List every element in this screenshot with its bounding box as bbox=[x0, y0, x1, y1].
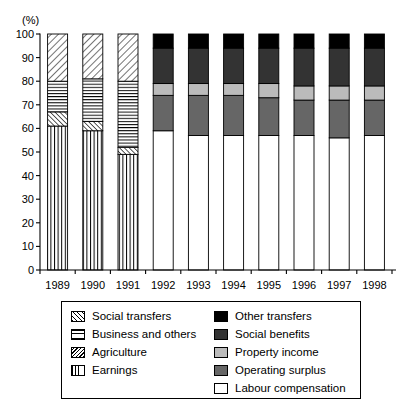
bar-segment-labour-compensation bbox=[364, 135, 384, 270]
bar-segment-other-transfers bbox=[294, 34, 314, 48]
bar-1997 bbox=[329, 34, 349, 270]
social-transfers-swatch bbox=[71, 311, 85, 322]
bar-segment-property-income bbox=[364, 86, 384, 100]
bars-layer bbox=[48, 34, 385, 270]
bar-segment-agriculture bbox=[118, 147, 138, 154]
legend-column-right: Other transfersSocial benefitsProperty i… bbox=[214, 308, 346, 398]
bar-segment-property-income bbox=[188, 84, 208, 96]
bar-1993 bbox=[188, 34, 208, 270]
legend-item-other-transfers[interactable]: Other transfers bbox=[214, 308, 346, 325]
legend-label: Operating surplus bbox=[235, 365, 326, 377]
bar-segment-social-benefits bbox=[329, 48, 349, 86]
bar-segment-business-and-others bbox=[83, 79, 103, 121]
operating-surplus-swatch bbox=[214, 365, 228, 376]
bar-1994 bbox=[224, 34, 244, 270]
bar-1998 bbox=[364, 34, 384, 270]
bar-segment-business-and-others bbox=[48, 81, 68, 112]
bar-segment-labour-compensation bbox=[294, 135, 314, 270]
bar-segment-social-benefits bbox=[188, 48, 208, 83]
legend-item-business-and-others[interactable]: Business and others bbox=[71, 326, 196, 343]
bar-segment-operating-surplus bbox=[294, 100, 314, 135]
bar-segment-other-transfers bbox=[259, 34, 279, 48]
bar-segment-earnings bbox=[118, 154, 138, 270]
legend-label: Social transfers bbox=[92, 311, 171, 323]
bar-segment-other-transfers bbox=[364, 34, 384, 48]
bar-segment-social-transfers bbox=[48, 34, 68, 81]
bar-segment-property-income bbox=[153, 84, 173, 96]
legend-item-property-income[interactable]: Property income bbox=[214, 344, 346, 361]
legend-item-labour-compensation[interactable]: Labour compensation bbox=[214, 380, 346, 397]
bar-segment-operating-surplus bbox=[224, 95, 244, 135]
bar-segment-social-benefits bbox=[364, 48, 384, 86]
property-income-swatch bbox=[214, 347, 228, 358]
bar-segment-property-income bbox=[294, 86, 314, 100]
legend-item-social-benefits[interactable]: Social benefits bbox=[214, 326, 346, 343]
legend-label: Agriculture bbox=[92, 347, 147, 359]
agriculture-swatch bbox=[71, 347, 85, 358]
bar-segment-operating-surplus bbox=[259, 98, 279, 136]
legend-item-operating-surplus[interactable]: Operating surplus bbox=[214, 362, 346, 379]
bar-segment-other-transfers bbox=[224, 34, 244, 48]
labour-compensation-swatch bbox=[214, 383, 228, 394]
legend-label: Labour compensation bbox=[235, 383, 346, 395]
bar-segment-agriculture bbox=[83, 121, 103, 130]
bar-segment-social-benefits bbox=[259, 48, 279, 83]
bar-segment-operating-surplus bbox=[188, 95, 208, 135]
bar-segment-operating-surplus bbox=[153, 95, 173, 130]
bar-segment-property-income bbox=[259, 84, 279, 98]
social-benefits-swatch bbox=[214, 329, 228, 340]
other-transfers-swatch bbox=[214, 311, 228, 322]
bar-segment-labour-compensation bbox=[259, 135, 279, 270]
bar-segment-social-benefits bbox=[294, 48, 314, 86]
bar-1996 bbox=[294, 34, 314, 270]
legend: Social transfersBusiness and othersAgric… bbox=[61, 301, 361, 399]
legend-label: Earnings bbox=[92, 365, 137, 377]
bar-segment-other-transfers bbox=[329, 34, 349, 48]
bar-segment-labour-compensation bbox=[224, 135, 244, 270]
legend-item-social-transfers[interactable]: Social transfers bbox=[71, 308, 196, 325]
bar-segment-labour-compensation bbox=[153, 131, 173, 270]
bar-segment-other-transfers bbox=[153, 34, 173, 48]
bar-segment-other-transfers bbox=[188, 34, 208, 48]
legend-item-agriculture[interactable]: Agriculture bbox=[71, 344, 196, 361]
legend-label: Business and others bbox=[92, 329, 196, 341]
legend-label: Social benefits bbox=[235, 329, 310, 341]
bar-segment-property-income bbox=[329, 86, 349, 100]
bar-segment-property-income bbox=[224, 84, 244, 96]
legend-item-earnings[interactable]: Earnings bbox=[71, 362, 196, 379]
bar-segment-business-and-others bbox=[118, 81, 138, 147]
bar-segment-social-benefits bbox=[153, 48, 173, 83]
stacked-bar-chart: (%) 1009080706050403020100 1989199019911… bbox=[0, 0, 408, 408]
legend-label: Other transfers bbox=[235, 311, 312, 323]
bar-segment-social-transfers bbox=[83, 34, 103, 79]
earnings-swatch bbox=[71, 365, 85, 376]
bar-segment-agriculture bbox=[48, 112, 68, 126]
business-and-others-swatch bbox=[71, 329, 85, 340]
bar-segment-social-benefits bbox=[224, 48, 244, 83]
legend-label: Property income bbox=[235, 347, 319, 359]
bar-1990 bbox=[83, 34, 103, 270]
bar-1995 bbox=[259, 34, 279, 270]
bar-segment-social-transfers bbox=[118, 34, 138, 81]
bar-1991 bbox=[118, 34, 138, 270]
bar-segment-labour-compensation bbox=[329, 138, 349, 270]
bar-segment-operating-surplus bbox=[364, 100, 384, 135]
bar-segment-operating-surplus bbox=[329, 100, 349, 138]
bar-1989 bbox=[48, 34, 68, 270]
bar-segment-earnings bbox=[48, 126, 68, 270]
bar-1992 bbox=[153, 34, 173, 270]
legend-column-left: Social transfersBusiness and othersAgric… bbox=[71, 308, 196, 380]
bar-segment-labour-compensation bbox=[188, 135, 208, 270]
bar-segment-earnings bbox=[83, 131, 103, 270]
